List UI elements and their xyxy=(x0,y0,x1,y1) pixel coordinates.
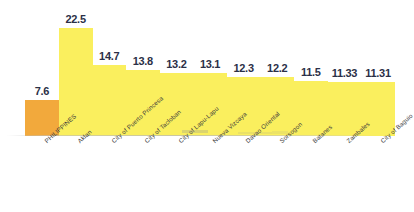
bar-group: 11.31 xyxy=(361,0,395,136)
bar[interactable] xyxy=(92,65,126,136)
category-axis-labels: PHILIPPINESAklanCity of Puerto PrincesaC… xyxy=(0,136,394,212)
plot-area: 7.622.514.713.813.213.112.312.211.511.33… xyxy=(0,0,394,136)
bar-value-label: 11.31 xyxy=(352,67,404,79)
bar-group: 14.7 xyxy=(92,0,126,136)
